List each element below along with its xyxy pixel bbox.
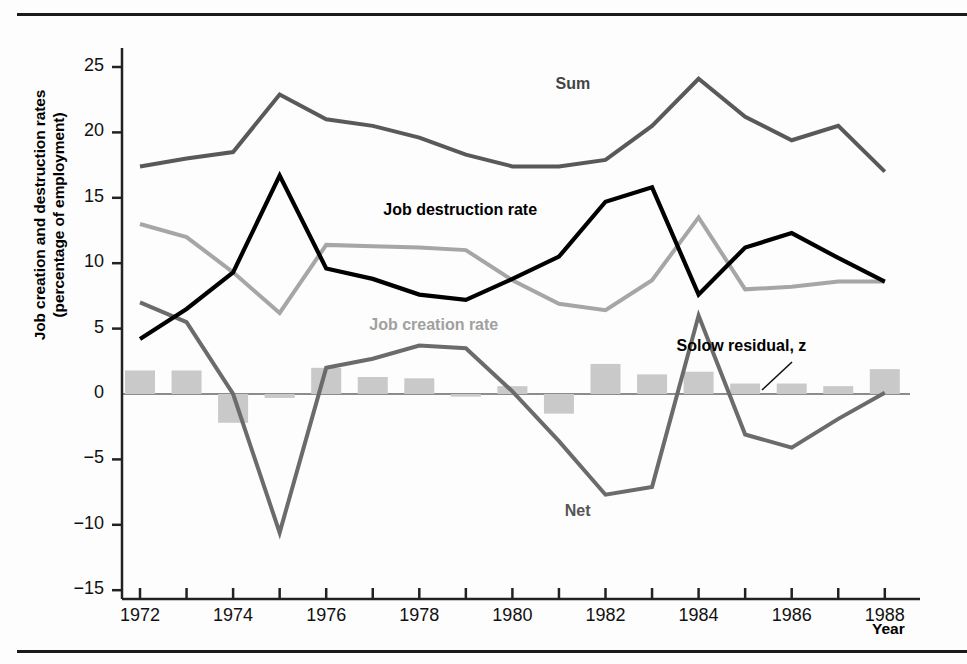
y-axis-tick-label: 10: [56, 251, 104, 272]
solow-residual-bar: [404, 378, 434, 394]
y-axis-tick-label: −15: [56, 578, 104, 599]
series-annotation-job-creation-rate: Job creation rate: [369, 316, 498, 334]
solow-residual-bar: [637, 374, 667, 394]
y-axis-tick-label: 25: [56, 55, 104, 76]
solow-residual-bar: [172, 370, 202, 394]
series-annotation-sum: Sum: [556, 75, 591, 93]
solow-residual-bar: [730, 384, 760, 394]
solow-residual-bar: [358, 377, 388, 394]
chart-figure: Job creation and destruction rates (perc…: [0, 0, 967, 664]
solow-residual-bar: [591, 364, 621, 394]
x-axis-tick-label: 1976: [291, 605, 361, 626]
y-axis-tick-label: −10: [56, 513, 104, 534]
x-axis-tick-label: 1988: [850, 605, 920, 626]
solow-residual-bar: [870, 369, 900, 394]
solow-residual-bar: [544, 394, 574, 414]
series-line-sum: [140, 79, 885, 172]
solow-residual-bar: [451, 394, 481, 397]
y-axis-tick-label: 15: [56, 186, 104, 207]
x-axis-tick-label: 1984: [664, 605, 734, 626]
series-annotation-solow-residual-z: Solow residual, z: [677, 337, 807, 355]
y-axis-tick-label: −5: [56, 447, 104, 468]
axes: [112, 48, 920, 599]
x-axis-tick-label: 1980: [477, 605, 547, 626]
x-axis-tick-label: 1974: [198, 605, 268, 626]
y-axis-tick-label: 20: [56, 120, 104, 141]
y-axis-tick-label: 0: [56, 382, 104, 403]
series-annotation-net: Net: [565, 502, 591, 520]
series-annotation-job-destruction-rate: Job destruction rate: [383, 201, 537, 219]
y-axis-tick-label: 5: [56, 317, 104, 338]
solow-residual-bar: [777, 384, 807, 394]
x-axis-tick-label: 1982: [571, 605, 641, 626]
solow-residual-bar: [125, 370, 155, 394]
solow-residual-bar: [265, 394, 295, 398]
x-axis-tick-label: 1986: [757, 605, 827, 626]
solow-residual-bar: [823, 386, 853, 394]
x-axis-tick-label: 1978: [384, 605, 454, 626]
x-axis-tick-label: 1972: [105, 605, 175, 626]
solow-residual-bar: [684, 372, 714, 394]
